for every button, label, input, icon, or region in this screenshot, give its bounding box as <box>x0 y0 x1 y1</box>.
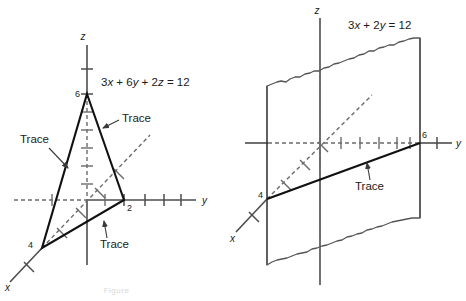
right-x-intercept-value: 4 <box>258 190 263 200</box>
figure-caption: Figure <box>0 286 233 295</box>
left-z-intercept-value: 6 <box>75 89 80 99</box>
right-plane-top-torn-edge <box>267 38 420 86</box>
left-z-axis-label: z <box>80 31 86 42</box>
figure-root: z y x 6 2 4 3x + 6y + 2z = 12 Trace Trac… <box>0 0 466 301</box>
right-z-axis-label: z <box>314 5 320 16</box>
right-trace-leader <box>367 163 370 180</box>
right-trace-label: Trace <box>355 180 384 192</box>
left-x-intercept-value: 4 <box>28 240 33 250</box>
left-plane-triangle <box>42 94 124 248</box>
figure-svg: z y x 6 2 4 3x + 6y + 2z = 12 Trace Trac… <box>0 0 466 301</box>
right-equation: 3x + 2y = 12 <box>348 19 411 31</box>
left-y-axis-label: y <box>201 195 208 206</box>
left-y-intercept-value: 2 <box>127 203 132 213</box>
right-panel: z y x 6 4 3x + 2y = 12 Trace <box>229 5 462 285</box>
left-x-ticks <box>24 169 124 272</box>
right-plane-bottom-torn-edge <box>267 218 420 265</box>
left-trace-leader-upper <box>103 120 119 128</box>
left-trace-label-bottom: Trace <box>100 238 129 250</box>
left-trace-leader-bottom <box>104 221 107 238</box>
right-y-intercept-value: 6 <box>422 130 427 140</box>
left-trace-leader-left <box>49 148 68 168</box>
right-trace-line <box>267 143 420 199</box>
left-equation: 3x + 6y + 2z = 12 <box>101 76 190 88</box>
right-x-axis-label: x <box>229 233 236 244</box>
left-trace-label-upper: Trace <box>122 112 151 124</box>
left-panel: z y x 6 2 4 3x + 6y + 2z = 12 Trace Trac… <box>4 31 208 293</box>
right-y-axis-label: y <box>455 138 462 149</box>
left-trace-label-left: Trace <box>20 133 49 145</box>
